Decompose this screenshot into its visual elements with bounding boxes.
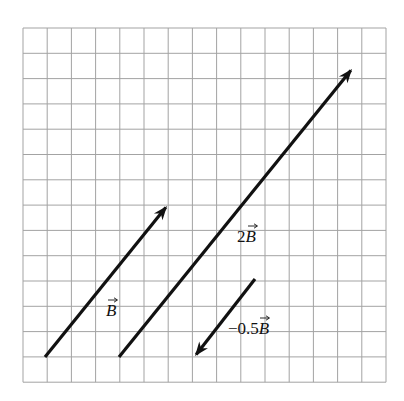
vector-neg-half-b: −0.5B xyxy=(195,279,270,356)
vector-2b-label: 2B xyxy=(237,227,257,246)
vector-2b: 2B xyxy=(119,69,352,357)
vector-neg-half-b-arrow xyxy=(196,279,255,354)
vector-diagram: B 2B −0.5B xyxy=(0,0,404,401)
vector-neg-half-b-label-prefix: −0.5 xyxy=(228,319,259,338)
vectors: B 2B −0.5B xyxy=(45,69,352,357)
vector-2b-label-prefix: 2 xyxy=(237,227,246,246)
vector-neg-half-b-label: −0.5B xyxy=(228,319,270,338)
diagram-canvas: B 2B −0.5B xyxy=(0,0,404,401)
vector-b-label-symbol: B xyxy=(106,301,117,320)
grid xyxy=(23,28,386,382)
vector-b-label: B xyxy=(106,301,117,320)
vector-2b-label-symbol: B xyxy=(246,227,257,246)
vector-neg-half-b-label-symbol: B xyxy=(259,319,270,338)
vector-2b-arrow xyxy=(119,71,351,357)
